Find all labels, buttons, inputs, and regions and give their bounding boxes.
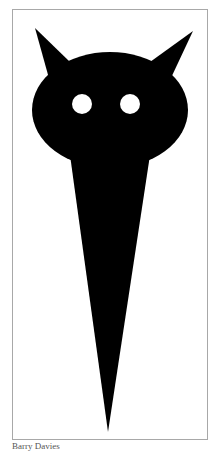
left-eye xyxy=(72,94,92,114)
horned-creature-silhouette xyxy=(0,0,221,456)
spike-body xyxy=(70,155,150,432)
head xyxy=(32,52,188,168)
artist-caption: Barry Davies xyxy=(12,441,60,451)
right-eye xyxy=(120,94,140,114)
